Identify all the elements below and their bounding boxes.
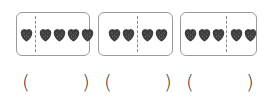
- strawberry-box-3: [180, 12, 257, 56]
- right-group: [39, 13, 95, 55]
- dashed-divider: [35, 16, 36, 52]
- strawberry-icon: [108, 27, 121, 42]
- strawberry-icon: [39, 27, 52, 42]
- strawberry-icon: [141, 27, 154, 42]
- strawberry-icon: [230, 27, 243, 42]
- answer-3-open-paren: (: [186, 70, 194, 94]
- strawberry-icon: [155, 27, 168, 42]
- strawberry-icon: [81, 27, 94, 42]
- answer-1-close-paren: ): [82, 70, 90, 94]
- strawberry-icon: [184, 27, 197, 42]
- strawberry-icon: [198, 27, 211, 42]
- left-group: [20, 13, 34, 55]
- strawberry-icon: [67, 27, 80, 42]
- strawberry-box-2: [98, 12, 173, 56]
- answer-3-close-paren: ): [246, 70, 254, 94]
- left-group: [108, 13, 136, 55]
- strawberry-icon: [20, 27, 33, 42]
- answer-1-open-paren: (: [22, 70, 30, 94]
- strawberry-icon: [53, 27, 66, 42]
- dashed-divider: [137, 16, 138, 52]
- right-group: [230, 13, 258, 55]
- left-group: [184, 13, 226, 55]
- right-group: [141, 13, 169, 55]
- strawberry-box-1: [16, 12, 90, 56]
- strawberry-icon: [122, 27, 135, 42]
- dashed-divider: [226, 16, 227, 52]
- strawberry-icon: [212, 27, 225, 42]
- answer-2-open-paren: (: [104, 70, 112, 94]
- strawberry-icon: [244, 27, 257, 42]
- answer-2-close-paren: ): [164, 70, 172, 94]
